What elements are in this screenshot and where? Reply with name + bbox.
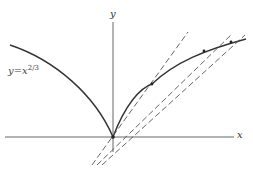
function-label-lhs: y=x — [8, 65, 28, 76]
curve-left — [10, 45, 113, 137]
x-axis-label: x — [237, 129, 243, 140]
point-2 — [203, 50, 206, 53]
point-3 — [230, 41, 233, 44]
diagram-canvas — [0, 0, 253, 170]
function-label: y=x2/3 — [8, 64, 39, 76]
y-axis-label: y — [110, 8, 116, 19]
origin-point — [111, 135, 115, 139]
point-1 — [151, 83, 154, 86]
function-label-exponent: 2/3 — [28, 64, 39, 72]
curve-right — [113, 39, 246, 137]
secant-line-shallow — [102, 35, 245, 165]
secant-line-middle — [97, 35, 231, 165]
secant-line-steep — [92, 32, 188, 165]
